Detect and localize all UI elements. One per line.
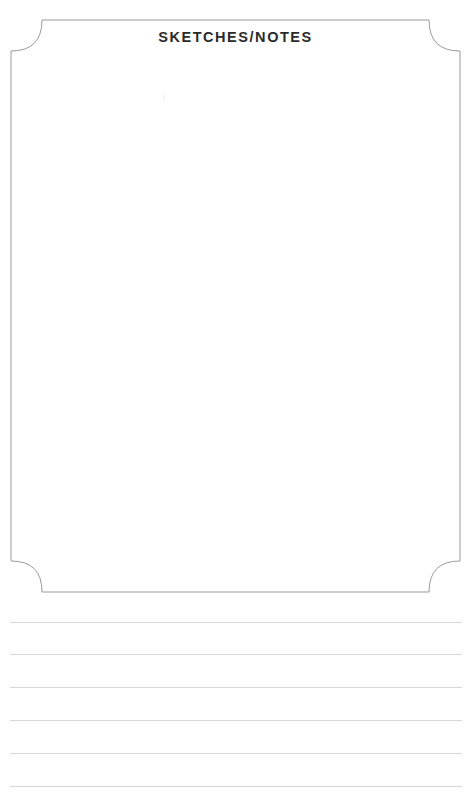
ruled-lines-group xyxy=(0,0,471,793)
page-canvas: SKETCHES/NOTES xyxy=(0,0,471,793)
rule-line[interactable] xyxy=(10,654,462,655)
rule-line[interactable] xyxy=(10,753,462,754)
rule-line[interactable] xyxy=(10,720,462,721)
rule-line[interactable] xyxy=(10,622,462,623)
rule-line[interactable] xyxy=(10,786,462,787)
rule-line[interactable] xyxy=(10,687,462,688)
